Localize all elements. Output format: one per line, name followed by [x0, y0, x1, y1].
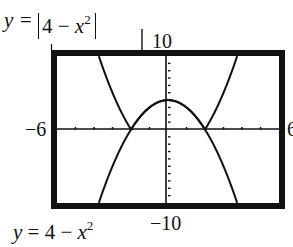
- graph-window: [0, 0, 293, 247]
- plot-area: [57, 56, 279, 203]
